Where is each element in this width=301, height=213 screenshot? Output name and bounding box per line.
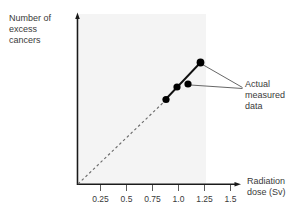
y-axis-label: Number of excess cancers bbox=[9, 13, 51, 46]
data-point bbox=[197, 59, 205, 67]
radiation-dose-cancer-chart: Number of excess cancers Radiation dose … bbox=[0, 0, 301, 213]
x-tick-label-6: 1.5 bbox=[218, 194, 243, 204]
data-point bbox=[173, 83, 180, 90]
data-point bbox=[162, 96, 169, 103]
x-axis-label: Radiation dose (Sv) bbox=[247, 176, 286, 198]
x-tick-label-5: 1.25 bbox=[191, 194, 218, 204]
x-tick-label-2: 0.5 bbox=[114, 194, 139, 204]
x-tick-label-4: 1.0 bbox=[166, 194, 191, 204]
data-point bbox=[184, 80, 191, 87]
x-axis-ticks bbox=[101, 185, 231, 191]
plot-background-band-fade bbox=[79, 14, 206, 184]
x-tick-label-3: 0.75 bbox=[139, 194, 166, 204]
annotation-actual-measured-data: Actual measured data bbox=[245, 79, 285, 112]
x-tick-label-1: 0.25 bbox=[87, 194, 114, 204]
